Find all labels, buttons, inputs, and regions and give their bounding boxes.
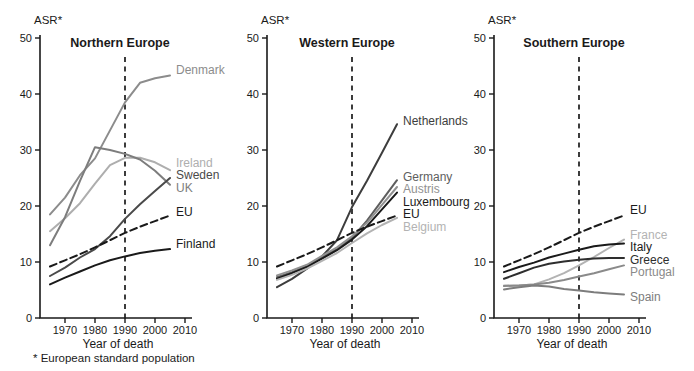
- label-uk: UK: [176, 181, 193, 195]
- label-netherlands: Netherlands: [403, 114, 468, 128]
- y-axis-label: ASR*: [34, 14, 63, 26]
- x-tick-label: 1970: [53, 324, 77, 336]
- y-axis-label: ASR*: [488, 14, 517, 26]
- y-tick-label: 10: [247, 256, 259, 268]
- line-portugal: [504, 265, 624, 286]
- panel-title: Southern Europe: [523, 36, 624, 50]
- x-tick-label: 1980: [83, 324, 107, 336]
- x-tick-label: 2010: [173, 324, 197, 336]
- panel-northern-europe: 0102030405019701980199020002010ASR*North…: [20, 14, 226, 351]
- y-tick-label: 30: [247, 144, 259, 156]
- footnote-european-standard-population: * European standard population: [33, 352, 195, 364]
- x-tick-label: 2010: [400, 324, 424, 336]
- axes: [494, 35, 646, 318]
- y-tick-label: 0: [480, 312, 486, 324]
- x-tick-label: 2000: [370, 324, 394, 336]
- label-sweden: Sweden: [176, 168, 219, 182]
- y-tick-label: 40: [247, 88, 259, 100]
- y-tick-label: 20: [474, 200, 486, 212]
- panel-title: Western Europe: [299, 36, 395, 50]
- line-greece: [504, 258, 624, 279]
- y-tick-label: 30: [474, 144, 486, 156]
- x-tick-label: 1990: [113, 324, 137, 336]
- y-tick-label: 40: [20, 88, 32, 100]
- y-tick-label: 50: [20, 32, 32, 44]
- y-tick-label: 10: [474, 256, 486, 268]
- x-axis-label: Year of death: [83, 337, 154, 351]
- x-tick-label: 2000: [143, 324, 167, 336]
- panel-western-europe: 0102030405019701980199020002010ASR*Weste…: [247, 14, 470, 351]
- x-tick-label: 1970: [280, 324, 304, 336]
- label-finland: Finland: [176, 237, 215, 251]
- line-eu: [50, 216, 170, 267]
- x-axis-label: Year of death: [310, 337, 381, 351]
- y-tick-label: 0: [253, 312, 259, 324]
- x-tick-label: 1970: [507, 324, 531, 336]
- x-tick-label: 2010: [627, 324, 651, 336]
- line-austris: [277, 187, 397, 275]
- x-tick-label: 1990: [567, 324, 591, 336]
- label-denmark: Denmark: [176, 63, 226, 77]
- y-tick-label: 20: [247, 200, 259, 212]
- label-portugal: Portugal: [630, 265, 675, 279]
- y-axis-label: ASR*: [261, 14, 290, 26]
- panel-title: Northern Europe: [70, 36, 169, 50]
- y-tick-label: 50: [247, 32, 259, 44]
- label-spain: Spain: [630, 290, 661, 304]
- line-spain: [504, 286, 624, 295]
- x-tick-label: 1990: [340, 324, 364, 336]
- label-belgium: Belgium: [403, 220, 446, 234]
- panel-southern-europe: 0102030405019701980199020002010ASR*South…: [474, 14, 675, 351]
- y-tick-label: 20: [20, 200, 32, 212]
- y-tick-label: 10: [20, 256, 32, 268]
- label-eu: EU: [176, 205, 193, 219]
- mortality-trends-figure: 0102030405019701980199020002010ASR*North…: [0, 0, 694, 371]
- y-tick-label: 40: [474, 88, 486, 100]
- y-tick-label: 50: [474, 32, 486, 44]
- line-france: [504, 240, 624, 286]
- x-tick-label: 2000: [597, 324, 621, 336]
- y-tick-label: 30: [20, 144, 32, 156]
- y-tick-label: 0: [26, 312, 32, 324]
- label-eu: EU: [630, 203, 647, 217]
- axes: [40, 35, 192, 318]
- x-axis-label: Year of death: [537, 337, 608, 351]
- x-tick-label: 1980: [537, 324, 561, 336]
- line-germany: [277, 180, 397, 277]
- x-tick-label: 1980: [310, 324, 334, 336]
